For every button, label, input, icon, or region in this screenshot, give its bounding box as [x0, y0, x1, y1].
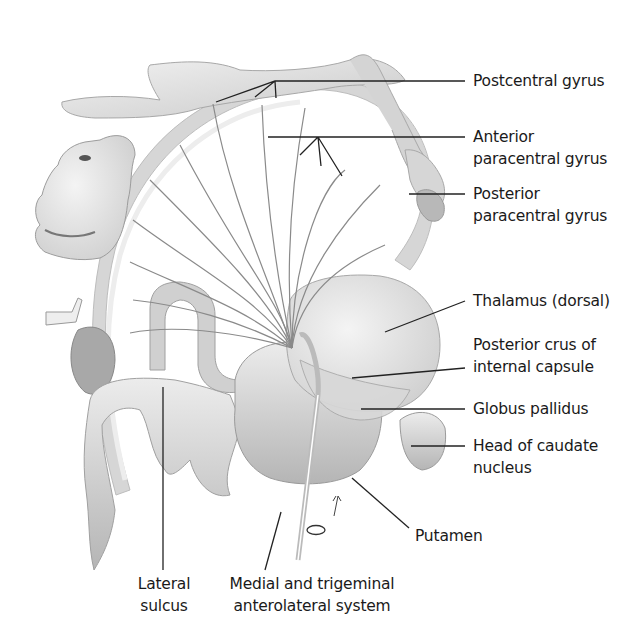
label-thalamus: Thalamus (dorsal) [473, 290, 610, 312]
label-lateral-sulcus: Lateral sulcus [133, 573, 195, 617]
label-line: sulcus [133, 595, 195, 617]
brain-illustration [0, 0, 642, 638]
label-line: Postcentral gyrus [473, 70, 604, 92]
label-line: Putamen [415, 525, 483, 547]
label-postcentral-gyrus: Postcentral gyrus [473, 70, 604, 92]
homunculus-face [35, 136, 135, 260]
label-head-caudate: Head of caudate nucleus [473, 435, 598, 479]
jaw-teeth [46, 298, 82, 325]
label-globus-pallidus: Globus pallidus [473, 398, 588, 420]
label-line: Lateral [133, 573, 195, 595]
label-putamen: Putamen [415, 525, 483, 547]
label-line: internal capsule [473, 356, 596, 378]
label-line: Posterior [473, 183, 607, 205]
caudate-head-shape [400, 412, 446, 470]
label-posterior-paracentral-gyrus: Posterior paracentral gyrus [473, 183, 607, 227]
label-posterior-crus: Posterior crus of internal capsule [473, 334, 596, 378]
label-line: Posterior crus of [473, 334, 596, 356]
label-medial-trigeminal: Medial and trigeminal anterolateral syst… [220, 573, 404, 617]
label-line: Globus pallidus [473, 398, 588, 420]
label-line: Anterior [473, 126, 607, 148]
label-line: anterolateral system [220, 595, 404, 617]
label-line: Thalamus (dorsal) [473, 290, 610, 312]
label-anterior-paracentral-gyrus: Anterior paracentral gyrus [473, 126, 607, 170]
label-line: Head of caudate [473, 435, 598, 457]
label-line: paracentral gyrus [473, 148, 607, 170]
label-line: nucleus [473, 457, 598, 479]
label-line: Medial and trigeminal [220, 573, 404, 595]
label-line: paracentral gyrus [473, 205, 607, 227]
